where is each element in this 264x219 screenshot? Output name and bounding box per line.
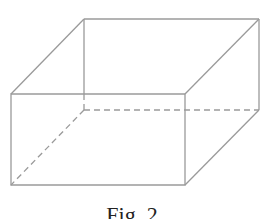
edge-top-right-depth [185, 19, 259, 94]
edge-bottom-right-depth [185, 110, 259, 185]
edge-top-left-depth [11, 19, 84, 94]
cuboid-diagram [0, 0, 264, 219]
front-face [11, 94, 185, 185]
hidden-edge-bottom-left-depth [11, 110, 84, 185]
figure-caption: Fig. 2 [0, 204, 264, 219]
